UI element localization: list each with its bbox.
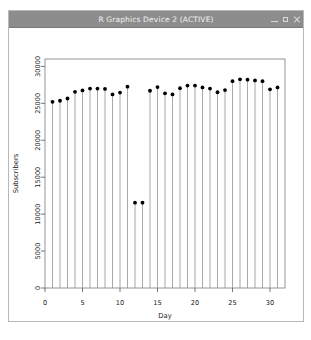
x-axis-tick-label: 15 (153, 299, 161, 307)
data-point (186, 84, 190, 88)
data-point (238, 77, 242, 81)
chart-svg: 0500010000150002000025000300000510152025… (9, 28, 303, 321)
data-point (231, 79, 235, 83)
data-point (261, 79, 265, 83)
x-axis-tick-label: 25 (228, 299, 236, 307)
data-point (223, 88, 227, 92)
x-axis-tick-label: 20 (191, 299, 199, 307)
x-axis-tick-label: 30 (266, 299, 274, 307)
window-title: R Graphics Device 2 (ACTIVE) (98, 15, 213, 24)
y-axis-title: Subscribers (12, 153, 20, 193)
x-axis-title: Day (158, 312, 171, 320)
stem-plot: 0500010000150002000025000300000510152025… (9, 28, 303, 321)
data-point (246, 78, 250, 82)
y-axis-tick-label: 5000 (34, 243, 42, 260)
data-point (103, 87, 107, 91)
minimize-icon[interactable] (271, 16, 278, 23)
data-point (163, 91, 167, 95)
data-point (111, 93, 115, 97)
close-icon[interactable] (293, 16, 300, 23)
window-controls (271, 11, 300, 28)
data-point (201, 86, 205, 90)
data-point (58, 99, 62, 103)
data-point (141, 201, 145, 205)
data-point (118, 91, 122, 95)
data-point (156, 85, 160, 89)
data-point (268, 87, 272, 91)
data-point (208, 87, 212, 91)
data-point (88, 87, 92, 91)
x-axis-tick-label: 0 (43, 299, 47, 307)
data-point (148, 89, 152, 93)
data-point (171, 93, 175, 97)
data-point (276, 86, 280, 90)
data-point (253, 79, 257, 83)
r-graphics-window: R Graphics Device 2 (ACTIVE) 05000100001… (8, 10, 304, 322)
y-axis-tick-label: 15000 (34, 167, 42, 188)
y-axis-tick-label: 20000 (34, 130, 42, 151)
data-point (193, 84, 197, 88)
y-axis-tick-label: 30000 (34, 56, 42, 77)
data-point (81, 88, 85, 92)
y-axis-tick-label: 25000 (34, 93, 42, 114)
data-point (133, 201, 137, 205)
y-axis-tick-label: 0 (34, 286, 42, 290)
y-axis-tick-label: 10000 (34, 204, 42, 225)
data-point (126, 85, 130, 89)
data-point (178, 86, 182, 90)
data-point (66, 97, 70, 101)
x-axis-tick-label: 5 (80, 299, 84, 307)
window-titlebar[interactable]: R Graphics Device 2 (ACTIVE) (9, 11, 303, 28)
data-point (51, 100, 55, 104)
data-point (73, 90, 77, 94)
window-client-area: 0500010000150002000025000300000510152025… (9, 28, 303, 321)
maximize-icon[interactable] (282, 16, 289, 23)
x-axis-tick-label: 10 (116, 299, 124, 307)
data-series (51, 77, 280, 288)
data-point (216, 90, 220, 94)
data-point (96, 87, 100, 91)
screen-root: R Graphics Device 2 (ACTIVE) 05000100001… (0, 0, 311, 340)
